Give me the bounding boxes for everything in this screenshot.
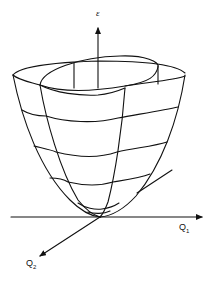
q1-axis-label: Q1 bbox=[179, 222, 189, 234]
q2-axis-back bbox=[137, 170, 172, 193]
meridian-right bbox=[100, 88, 125, 217]
bowl-outline-left bbox=[13, 75, 100, 217]
q2-label-main: Q bbox=[26, 258, 33, 268]
q2-label-subscript: 2 bbox=[33, 264, 36, 270]
rim-front bbox=[13, 75, 185, 90]
q1-label-subscript: 1 bbox=[186, 228, 189, 234]
rim-inner bbox=[40, 56, 158, 86]
ring-4 bbox=[78, 203, 119, 209]
meridian-left bbox=[40, 85, 100, 217]
rim-outer bbox=[13, 61, 185, 75]
energy-axis-label: ε bbox=[96, 8, 100, 18]
q1-label-main: Q bbox=[179, 222, 186, 232]
ring-3 bbox=[50, 174, 150, 185]
q2-axis-label: Q2 bbox=[26, 258, 36, 270]
paraboloid-diagram bbox=[0, 0, 218, 286]
bowl-outline-right bbox=[100, 75, 185, 217]
q2-axis bbox=[40, 217, 100, 256]
